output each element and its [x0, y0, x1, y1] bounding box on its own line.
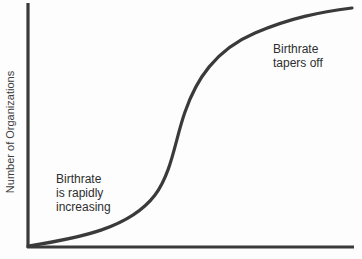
annotation-birthrate-tapers-off: Birthrate tapers off: [273, 42, 323, 70]
annotation-birthrate-rapidly-increasing: Birthrate is rapidly increasing: [56, 172, 111, 214]
y-axis-label: Number of Organizations: [3, 52, 17, 212]
plot-area: [0, 0, 362, 259]
s-curve-chart: Number of Organizations Birthrate tapers…: [0, 0, 362, 259]
